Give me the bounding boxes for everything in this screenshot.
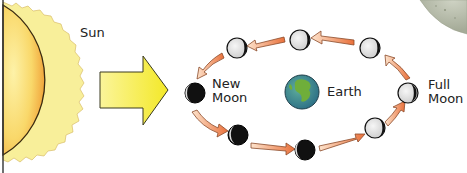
full-moon-label: Full Moon <box>428 78 463 106</box>
moon-crescent-icon <box>295 140 315 160</box>
orbit-arrow-icon <box>192 110 228 137</box>
moon-waxing-crescent-icon <box>228 125 248 145</box>
orbit-arrow-icon <box>247 37 285 51</box>
orbit-arrow-icon <box>319 134 365 151</box>
sun-label: Sun <box>80 26 105 40</box>
moon-last-quarter-icon <box>290 30 310 50</box>
moon-phases-diagram: Sun New Moon Earth Full Moon <box>0 0 467 173</box>
orbit-arrow-icon <box>311 31 354 45</box>
earth-label: Earth <box>327 85 362 99</box>
moon-waning-gibbous-icon <box>360 38 380 58</box>
moon-new-icon <box>185 83 205 103</box>
new-moon-label: New Moon <box>212 77 247 105</box>
sunlight-arrow-icon <box>100 56 168 125</box>
orbit-arrow-icon <box>251 143 295 155</box>
orbit-arrow-icon <box>385 101 405 126</box>
earth-icon <box>285 75 319 109</box>
moon-waning-crescent-icon <box>227 38 247 58</box>
orbit-arrow-icon <box>385 55 410 80</box>
moon-full-icon <box>398 83 418 103</box>
sun-icon <box>3 0 84 173</box>
lunar-surface-corner <box>420 0 467 34</box>
moon-waxing-gibbous-icon <box>365 118 385 138</box>
